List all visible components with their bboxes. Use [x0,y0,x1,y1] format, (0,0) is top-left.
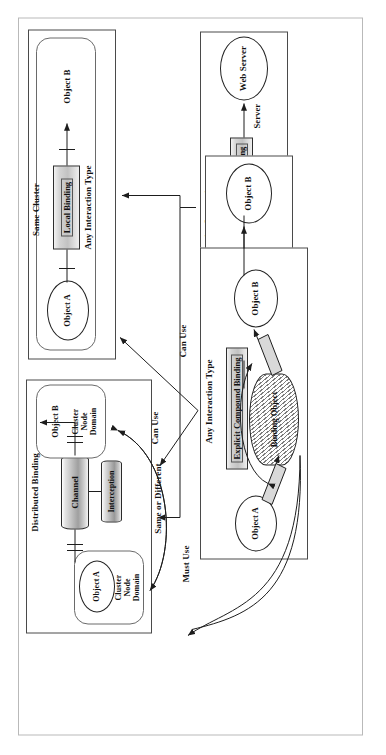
implicit-object-b: Web Server [220,36,268,100]
primitive-object-b: Object B [226,163,272,223]
same-cluster-object-a: Object A [47,280,89,340]
local-binding-label: Local Binding [61,178,73,235]
connector-label-must-use: Must Use [181,545,191,582]
binding-object-shape: Binding Object [249,373,299,465]
interception-label: Interception [107,470,116,512]
diagram-canvas: Same Cluster Object A Local Binding Any … [0,0,386,755]
same-cluster-interaction-label: Any Interaction Type [83,149,93,265]
distributed-object-a: Object A [79,560,115,612]
distributed-object-b: Object B [41,393,71,449]
diagram-landscape-root: Same Cluster Object A Local Binding Any … [0,0,386,755]
connector-label-can-use-implicit: Can Use [178,324,188,357]
same-cluster-header: Same Cluster [31,139,41,279]
compound-object-a: Object A [235,495,277,551]
compound-binding-bar: Explicit Compound Binding [226,347,248,469]
same-or-different-label: Same or Different [153,452,163,544]
connector-label-can-use-primitive: Can Use [150,411,160,444]
binding-object-label: Binding Object [269,391,279,447]
compound-binding-label: Explicit Compound Binding [231,354,243,462]
distributed-domain-b-label: ClusterNodeDomain [72,389,99,453]
channel-cylinder: Channel [61,455,89,529]
same-cluster-object-b: Object B [50,53,86,119]
distributed-domain-a-label: ClusterNodeDomain [115,555,142,619]
compound-object-b: Object B [234,269,278,327]
local-binding-bar: Local Binding [53,165,80,249]
compound-header: Any Interaction Type [204,343,214,459]
channel-label: Channel [70,476,80,509]
interception-block: Interception [101,460,122,522]
